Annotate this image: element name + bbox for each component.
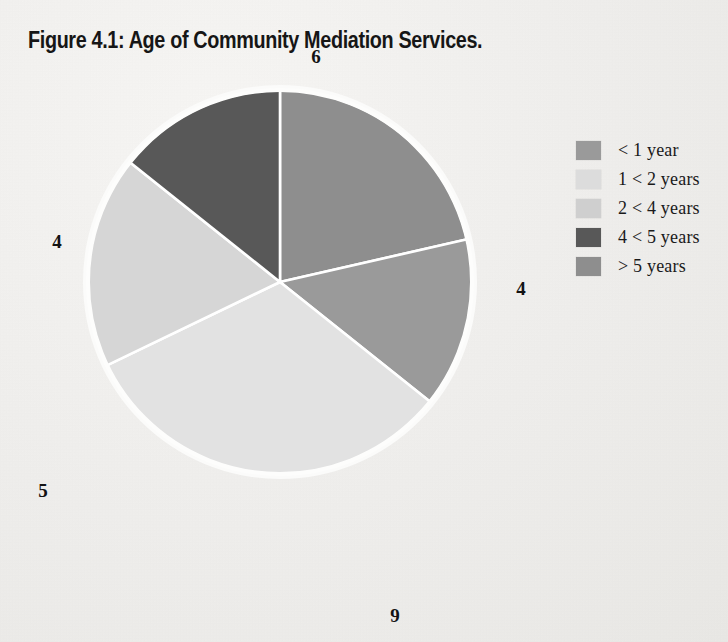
legend-label-1-to-2-years: 1 < 2 years — [618, 169, 700, 190]
legend-label-lt-1-year: < 1 year — [618, 140, 679, 161]
legend-item-gt-5-years[interactable]: > 5 years — [576, 252, 726, 280]
figure-page: Figure 4.1: Age of Community Mediation S… — [0, 0, 728, 642]
legend-swatch-icon-lt-1-year — [576, 141, 601, 160]
legend-swatch-icon-1-to-2-years — [576, 170, 601, 189]
data-label-top-left: 4 — [42, 231, 72, 253]
legend: < 1 year 1 < 2 years 2 < 4 years 4 < 5 y… — [576, 136, 726, 281]
legend-label-2-to-4-years: 2 < 4 years — [618, 198, 700, 219]
legend-label-4-to-5-years: 4 < 5 years — [618, 227, 700, 248]
legend-swatch-icon-2-to-4-years — [576, 199, 601, 218]
pie-chart-svg — [80, 82, 480, 482]
data-label-bottom: 9 — [380, 605, 410, 627]
data-label-right: 4 — [506, 278, 536, 300]
data-label-top: 6 — [301, 46, 331, 68]
page-title: Figure 4.1: Age of Community Mediation S… — [28, 27, 482, 54]
pie-chart: 6 4 9 5 4 — [80, 82, 480, 482]
legend-item-2-to-4-years[interactable]: 2 < 4 years — [576, 194, 726, 222]
legend-item-lt-1-year[interactable]: < 1 year — [576, 136, 726, 164]
legend-swatch-icon-gt-5-years — [576, 257, 601, 276]
data-label-bottom-left: 5 — [28, 480, 58, 502]
legend-item-1-to-2-years[interactable]: 1 < 2 years — [576, 165, 726, 193]
chart-area: 6 4 9 5 4 < 1 year 1 < 2 years 2 < 4 yea… — [0, 60, 728, 642]
legend-swatch-icon-4-to-5-years — [576, 228, 601, 247]
legend-label-gt-5-years: > 5 years — [618, 256, 686, 277]
legend-item-4-to-5-years[interactable]: 4 < 5 years — [576, 223, 726, 251]
